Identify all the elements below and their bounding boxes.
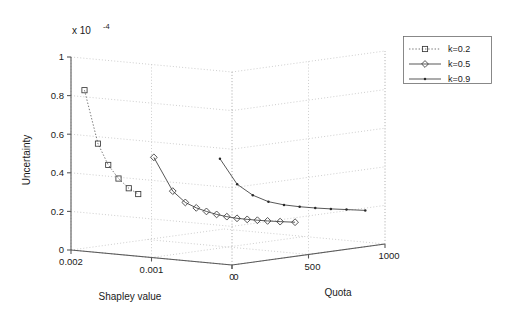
legend[interactable]: k=0.2k=0.5k=0.9: [404, 37, 492, 85]
legend-label-k=0.2[interactable]: k=0.2: [448, 44, 470, 54]
point-marker: [236, 183, 239, 186]
series-k=0.9: [219, 157, 367, 211]
z-tick-label: 500: [305, 261, 321, 272]
point-marker: [424, 78, 427, 81]
data-series-layer: [82, 88, 367, 226]
series-k=0.2: [82, 88, 141, 197]
point-marker: [267, 200, 270, 203]
point-marker: [330, 208, 333, 211]
y-axis-title: Uncertainty: [21, 135, 32, 186]
x-tick-label: 0.002: [59, 256, 83, 267]
y-tick-label: 0.4: [51, 167, 64, 178]
y-tick-label: 0.2: [51, 206, 64, 217]
plot-3d-uncertainty: 00.20.40.60.810.0020.001005001000 x 10 -…: [0, 0, 514, 323]
point-marker: [252, 194, 255, 197]
point-marker: [298, 205, 301, 208]
series-line: [220, 159, 365, 211]
y-tick-label: 0: [59, 244, 64, 255]
point-marker: [345, 208, 348, 211]
grid-lines: [71, 51, 385, 265]
exponent-superscript: -4: [103, 22, 110, 31]
y-tick-label: 0.8: [51, 90, 64, 101]
point-marker: [314, 207, 317, 210]
square-marker: [136, 191, 141, 196]
point-marker: [283, 204, 286, 207]
legend-marker-k=0.9: [424, 78, 427, 81]
z-axis-title: Quota: [324, 287, 352, 298]
x-axis-title: Shapley value: [99, 291, 162, 302]
exponent-multiplier: x 10 -4: [72, 22, 110, 36]
z-tick-label: 0: [233, 271, 238, 282]
y-tick-label: 0.6: [51, 129, 64, 140]
legend-label-k=0.5[interactable]: k=0.5: [448, 59, 470, 69]
exponent-base: x 10: [72, 25, 91, 36]
point-marker: [219, 157, 222, 160]
legend-label-k=0.9[interactable]: k=0.9: [448, 74, 470, 84]
axis-lines: [67, 51, 385, 269]
z-tick-label: 1000: [378, 250, 399, 261]
x-tick-label: 0.001: [140, 264, 164, 275]
y-tick-label: 1: [59, 51, 64, 62]
figure-canvas: 00.20.40.60.810.0020.001005001000 x 10 -…: [0, 0, 514, 323]
point-marker: [364, 209, 367, 212]
